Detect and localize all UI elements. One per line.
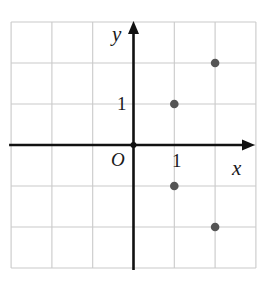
data-point [170,182,179,191]
origin-label: O [111,150,125,169]
y-axis-tick-label-1: 1 [117,94,127,113]
axes-lines [9,21,255,270]
coordinate-plane-figure: y x O 1 1 [0,0,261,288]
data-point [211,223,220,232]
x-axis-label: x [232,158,241,179]
x-axis-arrowhead [242,140,255,151]
y-axis-arrowhead [128,21,139,34]
y-axis-label: y [112,24,121,45]
data-point [211,59,220,68]
coordinate-plane-svg [0,0,261,288]
origin-dot [131,142,137,148]
data-point [170,100,179,109]
x-axis-tick-label-1: 1 [172,151,182,170]
